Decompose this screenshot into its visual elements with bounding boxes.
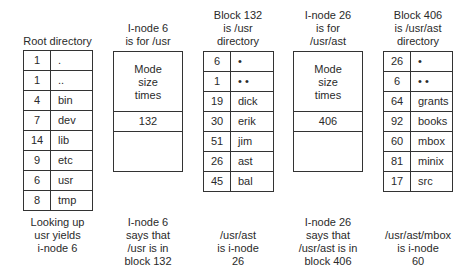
block-132-title: Block 132 is /usr directory	[188, 9, 288, 48]
table-row: 14lib	[24, 131, 92, 151]
table-row: 9etc	[24, 151, 92, 171]
table-row: 6• •	[384, 72, 452, 92]
table-row: 26•	[384, 52, 452, 72]
entry-name: dev	[51, 111, 92, 130]
entry-name: ast	[231, 152, 273, 171]
entry-name: • •	[411, 72, 452, 91]
inode-number: 1	[24, 71, 51, 90]
table-row: 81minix	[384, 152, 452, 172]
root-directory-table: 1. 1.. 4bin 7dev 14lib 9etc 6usr 8tmp	[23, 50, 93, 211]
inode-attributes: Mode size times	[294, 52, 362, 112]
entry-name: books	[411, 112, 452, 131]
inode-6-title: I-node 6 is for /usr	[98, 22, 198, 48]
inode-number: 4	[24, 91, 51, 110]
entry-name: src	[411, 172, 452, 192]
inode-number: 9	[24, 151, 51, 170]
table-row: 64grants	[384, 92, 452, 112]
table-row: 51jim	[204, 132, 273, 152]
entry-name: dick	[231, 92, 273, 111]
entry-name: usr	[51, 171, 92, 190]
table-row: 1.	[24, 51, 92, 71]
block-132-table: 6• 1• • 19dick 30erik 51jim 26ast 45bal	[203, 51, 274, 192]
inode-number: 26	[204, 152, 231, 171]
table-row: 30erik	[204, 112, 273, 132]
inode-26-box: Mode size times 406	[293, 51, 363, 172]
entry-name: minix	[411, 152, 452, 171]
inode-26-caption: I-node 26 says that /usr/ast is in block…	[278, 216, 378, 268]
entry-name: tmp	[51, 191, 92, 211]
table-row: 4bin	[24, 91, 92, 111]
entry-name: ..	[51, 71, 92, 90]
entry-name: etc	[51, 151, 92, 170]
inode-6-caption: I-node 6 says that /usr is in block 132	[98, 216, 198, 268]
entry-name: •	[231, 52, 273, 71]
inode-empty-slots	[294, 132, 362, 170]
entry-name: bin	[51, 91, 92, 110]
inode-number: 92	[384, 112, 411, 131]
table-row: 45bal	[204, 172, 273, 192]
table-row: 8tmp	[24, 191, 92, 211]
entry-name: jim	[231, 132, 273, 151]
inode-6-box: Mode size times 132	[113, 51, 183, 172]
entry-name: •	[411, 52, 452, 71]
block-406-title: Block 406 is /usr/ast directory	[368, 9, 468, 48]
inode-number: 14	[24, 131, 51, 150]
entry-name: grants	[411, 92, 452, 111]
inode-26-title: I-node 26 is for /usr/ast	[278, 9, 378, 48]
table-row: 26ast	[204, 152, 273, 172]
entry-name: • •	[231, 72, 273, 91]
inode-number: 19	[204, 92, 231, 111]
entry-name: lib	[51, 131, 92, 150]
table-row: 1..	[24, 71, 92, 91]
entry-name: bal	[231, 172, 273, 192]
inode-number: 17	[384, 172, 411, 192]
inode-number: 8	[24, 191, 51, 211]
entry-name: mbox	[411, 132, 452, 151]
table-row: 6•	[204, 52, 273, 72]
inode-number: 30	[204, 112, 231, 131]
inode-attributes: Mode size times	[114, 52, 182, 112]
entry-name: .	[51, 51, 92, 70]
inode-number: 51	[204, 132, 231, 151]
table-row: 7dev	[24, 111, 92, 131]
inode-block-address: 132	[114, 112, 182, 132]
block-406-table: 26• 6• • 64grants 92books 60mbox 81minix…	[383, 51, 453, 192]
table-row: 6usr	[24, 171, 92, 191]
inode-number: 45	[204, 172, 231, 192]
inode-number: 6	[384, 72, 411, 91]
inode-number: 26	[384, 52, 411, 71]
inode-number: 81	[384, 152, 411, 171]
inode-number: 1	[24, 51, 51, 70]
inode-number: 6	[204, 52, 231, 71]
inode-block-address: 406	[294, 112, 362, 132]
block-132-caption: /usr/ast is i-node 26	[188, 229, 288, 268]
inode-number: 64	[384, 92, 411, 111]
inode-number: 6	[24, 171, 51, 190]
table-row: 17src	[384, 172, 452, 192]
table-row: 60mbox	[384, 132, 452, 152]
table-row: 19dick	[204, 92, 273, 112]
block-406-caption: /usr/ast/mbox is i-node 60	[368, 229, 468, 268]
inode-empty-slots	[114, 132, 182, 170]
table-row: 92books	[384, 112, 452, 132]
entry-name: erik	[231, 112, 273, 131]
inode-number: 60	[384, 132, 411, 151]
table-row: 1• •	[204, 72, 273, 92]
inode-number: 1	[204, 72, 231, 91]
inode-number: 7	[24, 111, 51, 130]
